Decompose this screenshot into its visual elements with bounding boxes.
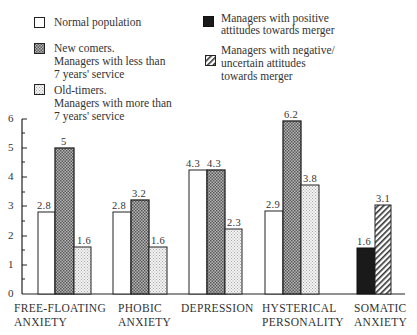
legend-label-positive-2: attitudes towards merger (221, 24, 334, 37)
category-label-phobic-1: PHOBIC (118, 302, 162, 315)
category-label-somatic-2: ANXIETY (354, 316, 407, 329)
value-label: 3.1 (376, 192, 390, 205)
category-label-hysterical-2: PERSONALITY (262, 316, 344, 329)
value-label: 5 (61, 135, 67, 148)
bar-group-somatic (357, 205, 391, 294)
legend-label-newcomers-1: New comers. (54, 42, 115, 55)
value-label: 1.6 (77, 234, 91, 247)
category-label-hysterical-1: HYSTERICAL (262, 302, 337, 315)
y-tick-4: 4 (8, 170, 14, 183)
value-label: 4.3 (207, 157, 221, 170)
y-axis (22, 119, 27, 294)
value-label: 2.8 (37, 199, 51, 212)
value-label: 1.6 (357, 235, 371, 248)
legend-label-normal: Normal population (54, 16, 141, 29)
legend-label-negative-1: Managers with negative/ (221, 44, 335, 57)
value-label: 3.2 (132, 187, 146, 200)
category-label-depression: DEPRESSION (181, 302, 254, 315)
value-label: 3.8 (303, 172, 317, 185)
bar-group-phobic (113, 200, 167, 294)
value-label: 2.8 (112, 199, 126, 212)
y-tick-3: 3 (8, 199, 14, 212)
category-label-phobic-2: ANXIETY (118, 316, 171, 329)
legend-label-newcomers-3: 7 years' service (54, 68, 124, 81)
value-label: 1.6 (151, 234, 165, 247)
y-tick-5: 5 (8, 141, 14, 154)
legend-label-oldtimers-1: Old-timers. (54, 84, 107, 97)
legend-label-negative-3: towards merger (221, 70, 293, 83)
legend-label-negative-2: uncertain attitudes (221, 57, 306, 70)
bar-group-depression (189, 170, 242, 294)
value-label: 2.3 (227, 216, 241, 229)
legend-label-newcomers-2: Managers with less than (54, 55, 165, 68)
legend-label-oldtimers-2: Managers with more than (54, 97, 172, 110)
bar-group-free-floating (38, 148, 91, 294)
category-label-somatic-1: SOMATIC (354, 302, 407, 315)
y-tick-0: 0 (8, 287, 14, 300)
value-label: 4.3 (186, 157, 200, 170)
y-tick-6: 6 (8, 112, 14, 125)
category-label-free-floating-2: ANXIETY (14, 316, 67, 329)
y-tick-1: 1 (8, 258, 14, 271)
value-label: 6.2 (284, 108, 298, 121)
value-label: 2.9 (266, 198, 280, 211)
y-tick-2: 2 (8, 229, 14, 242)
legend-label-oldtimers-3: 7 years' service (54, 110, 124, 123)
legend-swatch-normal (34, 17, 45, 28)
category-label-free-floating-1: FREE-FLOATING (14, 302, 106, 315)
